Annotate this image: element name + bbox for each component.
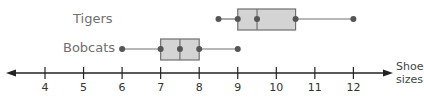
x-axis-title: Shoe sizes bbox=[396, 60, 423, 86]
series-label-bobcats: Bobcats bbox=[63, 40, 115, 55]
x-tick-label: 7 bbox=[151, 81, 171, 94]
x-tick-label: 5 bbox=[74, 81, 94, 94]
axis-right-arrow-icon bbox=[383, 70, 393, 77]
box-plot-bobcats bbox=[119, 39, 241, 60]
axis-left-arrow-icon bbox=[6, 70, 16, 77]
x-tick-label: 9 bbox=[228, 81, 248, 94]
five-number-point bbox=[350, 16, 356, 22]
x-tick-label: 12 bbox=[343, 81, 363, 94]
five-number-point bbox=[254, 16, 260, 22]
five-number-point bbox=[119, 46, 125, 52]
series-label-tigers: Tigers bbox=[73, 11, 113, 26]
iqr-box bbox=[238, 9, 296, 30]
box-plot-tigers bbox=[215, 9, 356, 30]
x-axis-title-line2: sizes bbox=[396, 73, 423, 86]
five-number-point bbox=[293, 16, 299, 22]
x-tick-label: 11 bbox=[305, 81, 325, 94]
five-number-point bbox=[235, 46, 241, 52]
five-number-point bbox=[158, 46, 164, 52]
x-axis bbox=[6, 67, 393, 79]
x-tick-label: 10 bbox=[266, 81, 286, 94]
five-number-point bbox=[215, 16, 221, 22]
x-axis-title-line1: Shoe bbox=[396, 60, 423, 73]
x-tick-label: 6 bbox=[112, 81, 132, 94]
five-number-point bbox=[177, 46, 183, 52]
x-tick-label: 4 bbox=[35, 81, 55, 94]
x-tick-label: 8 bbox=[189, 81, 209, 94]
five-number-point bbox=[196, 46, 202, 52]
five-number-point bbox=[235, 16, 241, 22]
